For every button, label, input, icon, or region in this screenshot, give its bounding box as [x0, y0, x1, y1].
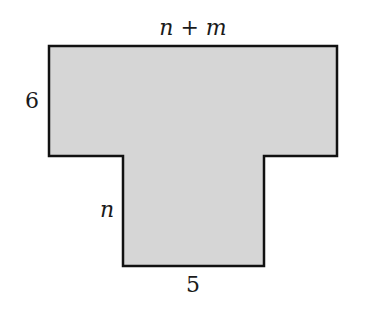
stem-height-label: n	[100, 197, 114, 222]
stem-width-label: 5	[186, 272, 200, 297]
t-shape-diagram: n + m 6 n 5	[0, 0, 365, 321]
top-height-label: 6	[25, 88, 39, 113]
top-width-label: n + m	[159, 15, 226, 40]
t-shape	[49, 46, 337, 266]
